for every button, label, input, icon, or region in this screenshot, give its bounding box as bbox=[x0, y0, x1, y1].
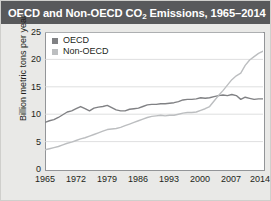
legend-swatch-oecd bbox=[52, 38, 58, 44]
title-subscript: 2 bbox=[142, 12, 146, 21]
x-tick-label-1986: 1986 bbox=[121, 175, 155, 184]
series-line-oecd bbox=[45, 94, 263, 122]
title-rest-text: Emissions, 1965–2014 bbox=[146, 7, 265, 19]
title-main-text: OECD and Non-OECD CO bbox=[8, 7, 142, 19]
series-line-non-oecd bbox=[45, 51, 263, 150]
chart-figure: OECD and Non-OECD CO2 Emissions, 1965–20… bbox=[0, 0, 271, 201]
legend-item-non-oecd: Non-OECD bbox=[52, 47, 109, 56]
x-tick-label-2000: 2000 bbox=[183, 175, 217, 184]
x-tick-label-1979: 1979 bbox=[90, 175, 124, 184]
x-tick-label-1965: 1965 bbox=[28, 175, 62, 184]
chart-legend: OECD Non-OECD bbox=[52, 36, 109, 56]
x-tick-label-1972: 1972 bbox=[59, 175, 93, 184]
y-tick-label-0: 0 bbox=[19, 165, 41, 174]
y-tick-label-20: 20 bbox=[19, 55, 41, 64]
y-tick-label-5: 5 bbox=[19, 138, 41, 147]
chart-title-bar: OECD and Non-OECD CO2 Emissions, 1965–20… bbox=[1, 1, 271, 24]
y-tick-label-10: 10 bbox=[19, 110, 41, 119]
x-tick-label-1993: 1993 bbox=[152, 175, 186, 184]
x-tick-label-2014: 2014 bbox=[243, 175, 271, 184]
page-title: OECD and Non-OECD CO2 Emissions, 1965–20… bbox=[8, 7, 266, 19]
y-tick-label-15: 15 bbox=[19, 83, 41, 92]
y-tick-label-25: 25 bbox=[19, 28, 41, 37]
series-lines-group bbox=[45, 51, 263, 150]
legend-label-oecd: OECD bbox=[63, 36, 89, 45]
legend-label-non-oecd: Non-OECD bbox=[63, 47, 109, 56]
legend-swatch-non-oecd bbox=[52, 49, 58, 55]
legend-item-oecd: OECD bbox=[52, 36, 109, 45]
